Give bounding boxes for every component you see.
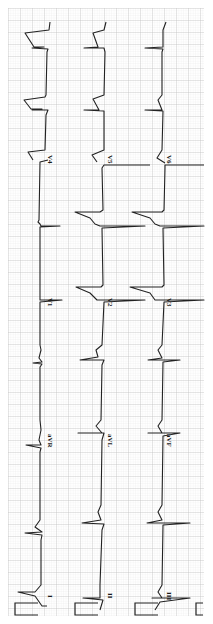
lead-label-aVF: aVF	[165, 434, 173, 447]
ecg-strip: V4 V5 V6 V1 V2 V3 aVR aVL aVF I II III	[0, 0, 213, 624]
lead-label-III: III	[165, 592, 173, 600]
lead-label-V6: V6	[165, 155, 173, 164]
lead-label-aVL: aVL	[106, 434, 114, 448]
lead-label-aVR: aVR	[46, 434, 54, 449]
lead-label-V3: V3	[165, 298, 173, 307]
lead-label-V2: V2	[106, 298, 114, 307]
lead-label-V1: V1	[46, 298, 54, 307]
ecg-grid	[8, 8, 204, 616]
lead-label-V4: V4	[46, 155, 54, 164]
lead-label-I: I	[46, 595, 54, 598]
lead-label-II: II	[106, 593, 114, 599]
lead-label-V5: V5	[106, 155, 114, 164]
